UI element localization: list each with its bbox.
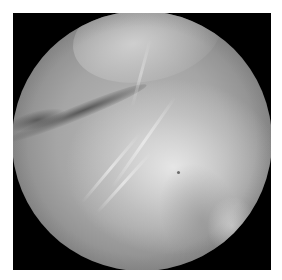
fiber-streak <box>81 133 141 204</box>
tissue-highlight <box>64 13 229 96</box>
tissue-fold <box>205 13 271 104</box>
tissue-highlight <box>207 196 257 256</box>
fiber-streak <box>131 39 152 107</box>
fiber-streak <box>96 152 152 213</box>
fiber-streak <box>111 97 177 189</box>
tissue-fold <box>13 78 149 147</box>
tissue-speck <box>177 171 180 174</box>
tissue-shadow <box>144 151 260 270</box>
arthroscopic-view <box>13 13 271 270</box>
lens-vignette <box>13 13 271 270</box>
image-frame <box>13 13 271 270</box>
tissue-fold <box>13 104 68 137</box>
